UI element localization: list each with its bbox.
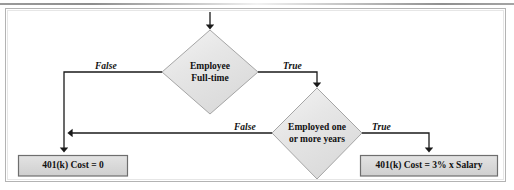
flowchart-canvas: Employee Full-time Employed one or more … bbox=[0, 0, 514, 190]
result-three-percent-salary-shape[interactable] bbox=[361, 156, 498, 177]
decision-employed-one-or-more-years-shape[interactable] bbox=[272, 88, 362, 179]
edge-fulltime-true bbox=[258, 72, 317, 85]
edge-years-true bbox=[362, 133, 429, 150]
decision-employee-fulltime-shape[interactable] bbox=[162, 30, 258, 114]
edge-fulltime-false bbox=[64, 72, 162, 150]
result-zero-cost-shape[interactable] bbox=[19, 156, 128, 177]
flowchart-graphics bbox=[0, 0, 514, 190]
